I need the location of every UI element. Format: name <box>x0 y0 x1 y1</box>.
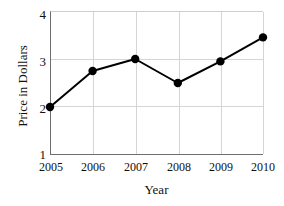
x-tick-label-2007: 2007 <box>113 160 159 174</box>
data-point-2005 <box>46 103 54 111</box>
data-point-2010 <box>259 33 267 41</box>
data-point-2007 <box>131 55 139 63</box>
x-tick-label-2010: 2010 <box>240 160 284 174</box>
data-point-2009 <box>216 57 224 65</box>
y-axis-title: Price in Dollars <box>15 11 31 161</box>
x-axis-title: Year <box>50 182 263 198</box>
x-tick-label-2008: 2008 <box>156 160 202 174</box>
x-tick-label-2005: 2005 <box>28 160 74 174</box>
data-point-2008 <box>174 79 182 87</box>
series-line <box>50 37 263 107</box>
x-tick-label-2006: 2006 <box>70 160 116 174</box>
x-axis-tick-labels: 2005 2006 2007 2008 2009 2010 <box>0 160 284 178</box>
data-point-2006 <box>88 67 96 75</box>
series-markers <box>46 33 267 111</box>
line-chart: 4 3 2 1 2005 2006 2007 2008 2009 2010 Ye… <box>0 0 284 206</box>
x-tick-label-2009: 2009 <box>198 160 244 174</box>
